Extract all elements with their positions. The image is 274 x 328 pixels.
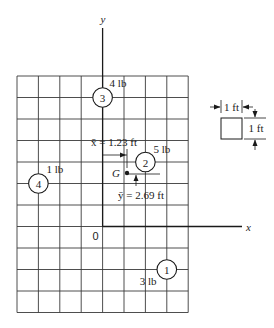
- x-bar-dimension: x̄ = 1.23 ft: [91, 136, 137, 168]
- scale-bottom-arrow-icon: [253, 140, 258, 147]
- scale-square: [221, 118, 242, 139]
- mass-2: 25 lb: [136, 143, 171, 172]
- scale-left-arrow-icon: [214, 105, 221, 110]
- scale-right-arrow-icon: [243, 105, 250, 110]
- centroid-point: G: [112, 167, 129, 179]
- y-bar-dimension: ȳ = 2.69 ft: [118, 174, 164, 201]
- mass-number: 1: [164, 264, 170, 276]
- x-bar-label: x̄ = 1.23 ft: [91, 136, 137, 148]
- centroid-dot-icon: [125, 171, 129, 175]
- mass-4: 41 lb: [29, 163, 64, 194]
- mass-3: 34 lb: [93, 77, 127, 108]
- y-bar-arrow-icon: [134, 175, 139, 181]
- y-axis-label: y: [100, 13, 106, 25]
- y-bar-label: ȳ = 2.69 ft: [118, 189, 164, 201]
- mass-number: 2: [143, 157, 149, 169]
- mass-weight-label: 4 lb: [110, 77, 127, 89]
- mass-weight-label: 1 lb: [46, 163, 63, 175]
- centroid-diagram: y x 0 x̄ = 1.23 ft ȳ = 2.69 ft G 13 lb25…: [0, 0, 274, 328]
- mass-weight-label: 5 lb: [153, 143, 170, 155]
- x-axis-label: x: [245, 221, 251, 233]
- scale-height-label: 1 ft: [249, 122, 264, 134]
- scale-width-label: 1 ft: [224, 101, 239, 113]
- scale-top-arrow-icon: [253, 111, 258, 118]
- origin-label: 0: [93, 230, 99, 242]
- mass-number: 4: [36, 178, 42, 190]
- mass-weight-label: 3 lb: [140, 275, 157, 287]
- scale-legend: 1 ft 1 ft: [210, 100, 266, 150]
- x-bar-arrow-icon: [120, 153, 126, 158]
- mass-number: 3: [100, 92, 106, 104]
- centroid-label: G: [112, 167, 120, 179]
